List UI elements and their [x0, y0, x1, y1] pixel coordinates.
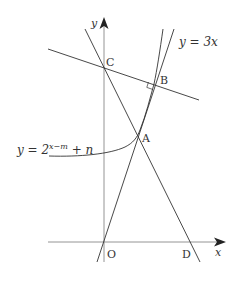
geometry-figure: C B A O D y x y = 3x y = 2x−m + n [0, 0, 241, 285]
line-eq-var: x [211, 35, 218, 49]
label-point-c: C [106, 56, 114, 69]
x-axis [48, 238, 226, 247]
label-point-a: A [141, 132, 151, 145]
label-point-d: D [182, 248, 191, 261]
label-y-axis: y [90, 17, 98, 30]
line-cd [85, 29, 200, 262]
exp-eq-exponent: x−m [49, 142, 68, 151]
label-line-equation: y = 3x [178, 35, 218, 49]
line-eq-prefix: y = 3 [178, 35, 211, 49]
exp-eq-tail: + n [68, 143, 93, 157]
label-point-b: B [160, 74, 168, 87]
y-axis [100, 17, 109, 262]
exp-eq-lhs: y = 2 [16, 143, 49, 157]
label-point-o: O [107, 248, 116, 261]
label-exponential-equation: y = 2x−m + n [16, 142, 93, 157]
label-x-axis: x [215, 246, 222, 259]
line-cb [48, 49, 199, 100]
